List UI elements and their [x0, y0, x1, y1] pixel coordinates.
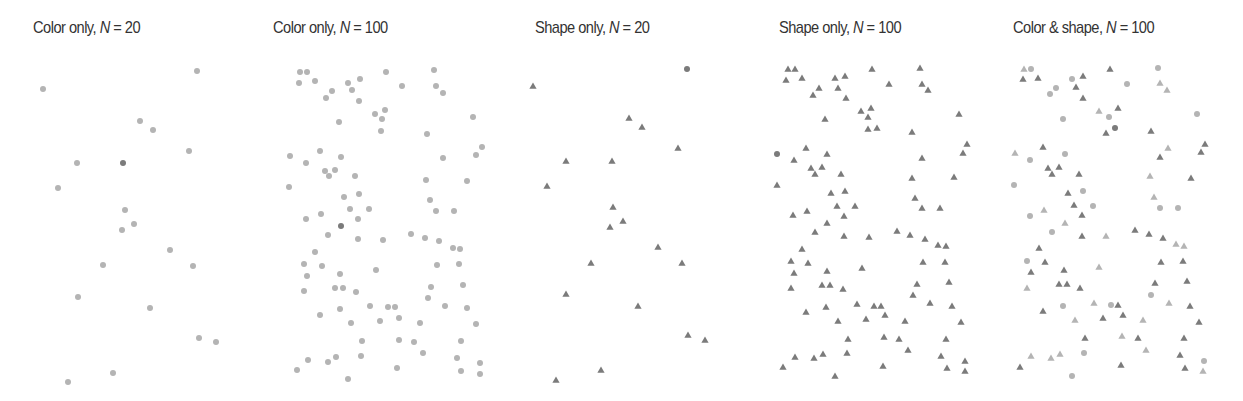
triangle-marker — [1139, 316, 1146, 322]
circle-marker — [372, 111, 378, 117]
circle-marker — [332, 285, 338, 291]
triangle-marker — [819, 350, 826, 356]
triangle-marker — [654, 243, 661, 249]
triangle-marker — [936, 204, 943, 210]
circle-marker — [423, 177, 429, 183]
circle-marker — [1024, 258, 1030, 264]
triangle-marker — [911, 194, 918, 200]
circle-marker — [194, 68, 200, 74]
triangle-marker — [901, 317, 908, 323]
circle-marker — [329, 88, 335, 94]
triangle-marker — [877, 302, 884, 308]
circle-marker — [304, 273, 310, 279]
circle-marker — [436, 238, 442, 244]
triangle-marker — [870, 302, 877, 308]
triangle-marker — [1159, 234, 1166, 240]
triangle-marker — [837, 170, 844, 176]
triangle-marker — [529, 82, 536, 88]
triangle-marker — [1079, 94, 1086, 100]
circle-marker — [396, 337, 402, 343]
circle-marker — [1080, 188, 1086, 194]
circle-marker — [477, 360, 483, 366]
triangle-marker — [1011, 149, 1018, 155]
triangle-marker — [831, 372, 838, 378]
triangle-marker — [608, 157, 615, 163]
circle-marker — [464, 305, 470, 311]
triangle-marker — [1119, 311, 1126, 317]
triangle-marker — [881, 311, 888, 317]
circle-marker — [323, 95, 329, 101]
triangle-marker — [1095, 107, 1102, 113]
circle-marker — [377, 318, 383, 324]
triangle-marker — [822, 303, 829, 309]
triangle-marker — [773, 181, 780, 187]
circle-marker — [440, 155, 446, 161]
triangle-marker — [1019, 75, 1026, 81]
triangle-marker — [818, 163, 825, 169]
circle-marker — [458, 368, 464, 374]
triangle-marker — [841, 187, 848, 193]
circle-marker — [454, 355, 460, 361]
triangle-marker — [807, 164, 814, 170]
circle-marker — [396, 315, 402, 321]
circle-marker — [1027, 157, 1033, 163]
triangle-marker — [1114, 301, 1121, 307]
triangle-marker — [803, 207, 810, 213]
triangle-marker — [1176, 351, 1183, 357]
triangle-marker — [1020, 65, 1027, 71]
circle-marker — [1069, 76, 1075, 82]
triangle-marker — [1147, 127, 1154, 133]
triangle-marker — [790, 269, 797, 275]
circle-marker — [428, 284, 434, 290]
circle-marker — [442, 303, 448, 309]
circle-marker — [479, 144, 485, 150]
triangle-marker — [880, 333, 887, 339]
circle-marker — [1194, 111, 1200, 117]
triangle-marker — [674, 144, 681, 150]
circle-marker — [1062, 151, 1068, 157]
triangle-marker — [1040, 206, 1047, 212]
triangle-marker — [834, 84, 841, 90]
triangle-marker — [942, 242, 949, 248]
panel-4 — [1011, 65, 1209, 379]
triangle-marker — [638, 123, 645, 129]
triangle-marker — [867, 104, 874, 110]
circle-marker — [420, 350, 426, 356]
circle-marker — [120, 160, 126, 166]
circle-marker — [122, 207, 128, 213]
triangle-marker — [963, 140, 970, 146]
circle-marker — [147, 305, 153, 311]
triangle-marker — [823, 150, 830, 156]
circle-marker — [1201, 358, 1207, 364]
circle-marker — [1047, 91, 1053, 97]
circle-marker — [40, 86, 46, 92]
triangle-marker — [1199, 367, 1206, 373]
triangle-marker — [1071, 316, 1078, 322]
triangle-marker — [1134, 334, 1141, 340]
circle-marker — [341, 194, 347, 200]
triangle-marker — [885, 80, 892, 86]
triangle-marker — [909, 291, 916, 297]
triangle-marker — [1016, 363, 1023, 369]
circle-marker — [345, 376, 351, 382]
triangle-marker — [1076, 284, 1083, 290]
circle-marker — [55, 185, 61, 191]
circle-marker — [380, 237, 386, 243]
triangle-marker — [790, 156, 797, 162]
circle-marker — [65, 379, 71, 385]
triangle-marker — [1131, 226, 1138, 232]
triangle-marker — [1081, 334, 1088, 340]
triangle-marker — [1117, 361, 1124, 367]
circle-marker — [305, 357, 311, 363]
triangle-marker — [811, 228, 818, 234]
circle-marker — [470, 114, 476, 120]
scatter-plots — [0, 0, 1243, 401]
triangle-marker — [543, 182, 550, 188]
triangle-marker — [798, 245, 805, 251]
circle-marker — [433, 208, 439, 214]
triangle-marker — [606, 223, 613, 229]
triangle-marker — [1180, 334, 1187, 340]
triangle-marker — [804, 259, 811, 265]
circle-marker — [303, 216, 309, 222]
circle-marker — [399, 83, 405, 89]
